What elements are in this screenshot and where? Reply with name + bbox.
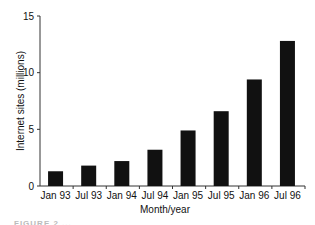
x-tick-label: Jan 96 bbox=[239, 190, 269, 201]
y-tick-label: 0 bbox=[28, 181, 34, 192]
bar-chart: 051015 Jan 93Jul 93Jan 94Jul 94Jan 95Jul… bbox=[0, 0, 315, 225]
y-tick-label: 5 bbox=[28, 124, 34, 135]
figure-caption: FIGURE 2 ... bbox=[14, 219, 72, 225]
x-tick-label: Jan 95 bbox=[173, 190, 203, 201]
bar bbox=[214, 111, 229, 186]
bar bbox=[280, 41, 295, 186]
bar bbox=[114, 161, 129, 186]
bar bbox=[247, 79, 262, 186]
x-tick-label: Jan 93 bbox=[41, 190, 71, 201]
x-axis-title: Month/year bbox=[140, 204, 191, 215]
bars bbox=[48, 41, 295, 186]
y-axis-title: Internet sites (millions) bbox=[15, 51, 26, 151]
x-tick-label: Jul 93 bbox=[75, 190, 102, 201]
bar bbox=[48, 171, 63, 186]
x-tick-label: Jul 95 bbox=[208, 190, 235, 201]
bar bbox=[147, 150, 162, 186]
bar bbox=[81, 166, 96, 186]
bar bbox=[181, 130, 196, 186]
y-tick-label: 15 bbox=[23, 11, 35, 22]
x-tick-label: Jul 94 bbox=[142, 190, 169, 201]
x-axis: Jan 93Jul 93Jan 94Jul 94Jan 95Jul 95Jan … bbox=[40, 186, 305, 201]
x-tick-label: Jan 94 bbox=[107, 190, 137, 201]
x-tick-label: Jul 96 bbox=[274, 190, 301, 201]
